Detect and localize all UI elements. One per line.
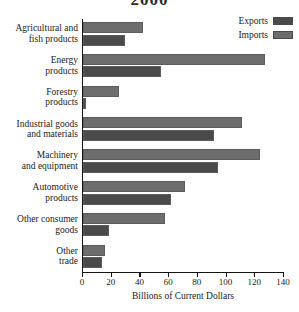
bar-imports: [83, 86, 119, 97]
legend-item-exports: Exports: [238, 15, 293, 27]
category-label: Machineryand equipment: [0, 150, 78, 171]
bar-exports: [83, 162, 218, 173]
category-label: Othertrade: [0, 246, 78, 267]
bar-imports: [83, 181, 185, 192]
legend-swatch-exports: [273, 17, 293, 25]
category-label-line: Agricultural and: [0, 23, 78, 34]
bar-imports: [83, 117, 242, 128]
category-label-line: Forestry: [0, 87, 78, 98]
bar-group: Othertrade: [0, 245, 299, 269]
bar-imports: [83, 149, 260, 160]
bar-exports: [83, 257, 102, 268]
category-label: Energyproducts: [0, 55, 78, 76]
category-label-line: trade: [0, 256, 78, 267]
legend-label-exports: Exports: [238, 15, 268, 27]
x-tick-label-20: 20: [106, 277, 115, 287]
category-label: Automotiveproducts: [0, 182, 78, 203]
bar-imports: [83, 54, 265, 65]
bar-exports: [83, 194, 171, 205]
x-tick-label-100: 100: [219, 277, 233, 287]
bar-group: Energyproducts: [0, 54, 299, 78]
chart-legend: Exports Imports: [238, 15, 293, 43]
x-tick-label-60: 60: [164, 277, 173, 287]
category-label: Forestryproducts: [0, 87, 78, 108]
x-axis-title: Billions of Current Dollars: [82, 291, 284, 301]
category-label-line: Automotive: [0, 182, 78, 193]
category-label-line: goods: [0, 225, 78, 236]
bar-imports: [83, 213, 165, 224]
category-label-line: Other consumer: [0, 214, 78, 225]
bar-exports: [83, 130, 214, 141]
bar-group: Machineryand equipment: [0, 149, 299, 173]
x-tick-label-80: 80: [192, 277, 201, 287]
x-tick-label-40: 40: [135, 277, 144, 287]
category-label-line: products: [0, 97, 78, 108]
category-label-line: fish products: [0, 34, 78, 45]
x-tick-label-120: 120: [248, 277, 262, 287]
bar-group: Industrial goodsand materials: [0, 117, 299, 141]
category-label: Agricultural andfish products: [0, 23, 78, 44]
bar-group: Other consumergoods: [0, 213, 299, 237]
bar-exports: [83, 225, 109, 236]
category-label-line: products: [0, 66, 78, 77]
bar-chart: 2000 020406080100120140 Billions of Curr…: [0, 0, 299, 312]
category-label-line: Energy: [0, 55, 78, 66]
bar-imports: [83, 22, 143, 33]
category-label-line: Machinery: [0, 150, 78, 161]
bar-exports: [83, 35, 125, 46]
legend-item-imports: Imports: [238, 29, 293, 41]
category-label-line: Industrial goods: [0, 119, 78, 130]
chart-title: 2000: [0, 0, 299, 5]
category-label: Other consumergoods: [0, 214, 78, 235]
category-label: Industrial goodsand materials: [0, 119, 78, 140]
x-tick-label-0: 0: [80, 277, 85, 287]
bar-exports: [83, 66, 161, 77]
category-label-line: and materials: [0, 129, 78, 140]
x-tick-label-140: 140: [276, 277, 290, 287]
category-label-line: and equipment: [0, 161, 78, 172]
bar-group: Automotiveproducts: [0, 181, 299, 205]
category-label-line: Other: [0, 246, 78, 257]
bar-exports: [83, 98, 86, 109]
bar-group: Forestryproducts: [0, 86, 299, 110]
bar-imports: [83, 245, 105, 256]
legend-swatch-imports: [273, 31, 293, 39]
legend-label-imports: Imports: [238, 29, 268, 41]
category-label-line: products: [0, 193, 78, 204]
